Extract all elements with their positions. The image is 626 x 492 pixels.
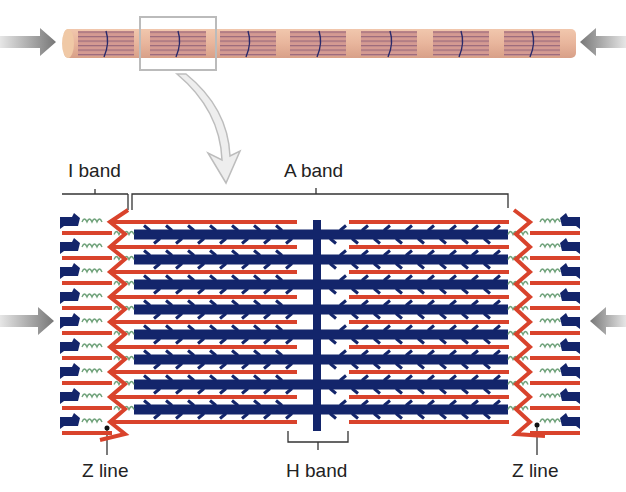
curved-arrow-down-icon [177, 74, 240, 183]
arrow-right-icon [0, 28, 56, 56]
z-line-left-label: Z line [82, 460, 128, 482]
myofibril [0, 17, 626, 183]
z-line-right-label: Z line [512, 460, 558, 482]
a-band-label: A band [284, 160, 343, 182]
arrow-right-icon [0, 307, 54, 335]
arrow-left-icon [590, 307, 626, 335]
arrow-left-icon [580, 28, 626, 56]
i-band-label: I band [68, 160, 121, 182]
h-band-label: H band [286, 460, 347, 482]
sarcomere-diagram [0, 0, 626, 492]
filament-lattice [60, 210, 580, 440]
